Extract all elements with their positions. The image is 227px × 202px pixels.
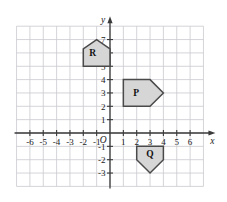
x-axis-label: x bbox=[209, 136, 215, 146]
shape-label-q: Q bbox=[146, 149, 153, 159]
x-tick-label: -2 bbox=[80, 137, 88, 147]
y-tick-label: -3 bbox=[98, 168, 106, 178]
y-tick-label: 3 bbox=[101, 88, 106, 98]
shape-label-p: P bbox=[133, 88, 139, 98]
y-axis-label: y bbox=[100, 15, 106, 25]
x-tick-label: 3 bbox=[148, 137, 153, 147]
pentagon-r bbox=[83, 40, 110, 67]
coordinate-plane: -6-5-4-3-2-11234567654321-1-2-3 OxyRPQ bbox=[0, 0, 227, 202]
x-tick-label: 6 bbox=[188, 137, 193, 147]
coordinate-grid-figure: -6-5-4-3-2-11234567654321-1-2-3 OxyRPQ bbox=[0, 0, 227, 202]
x-tick-label: -4 bbox=[53, 137, 61, 147]
x-tick-label: 5 bbox=[175, 137, 180, 147]
axes bbox=[15, 16, 216, 188]
x-tick-label: -5 bbox=[40, 137, 48, 147]
y-tick-label: 1 bbox=[101, 115, 106, 125]
shape-label-r: R bbox=[89, 48, 96, 58]
x-tick-label: -6 bbox=[26, 137, 34, 147]
y-tick-label: -2 bbox=[98, 155, 106, 165]
x-tick-label: 1 bbox=[121, 137, 126, 147]
x-tick-label: 2 bbox=[134, 137, 139, 147]
y-tick-label: 4 bbox=[101, 75, 106, 85]
origin-label: O bbox=[100, 135, 107, 145]
pentagon-p bbox=[123, 80, 163, 107]
x-tick-label: -3 bbox=[66, 137, 74, 147]
x-tick-label: 4 bbox=[161, 137, 166, 147]
y-axis-arrowhead bbox=[107, 16, 112, 23]
y-tick-label: 2 bbox=[101, 102, 106, 112]
